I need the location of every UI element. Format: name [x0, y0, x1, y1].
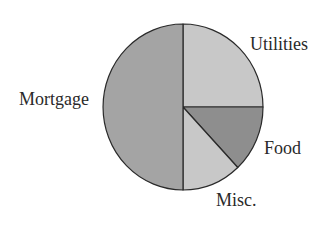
label-food: Food — [264, 139, 301, 157]
label-mortgage: Mortgage — [19, 90, 89, 108]
pie-slice-mortgage — [103, 24, 183, 190]
pie-slices — [103, 24, 263, 190]
label-misc: Misc. — [216, 191, 257, 209]
label-utilities: Utilities — [250, 35, 308, 53]
